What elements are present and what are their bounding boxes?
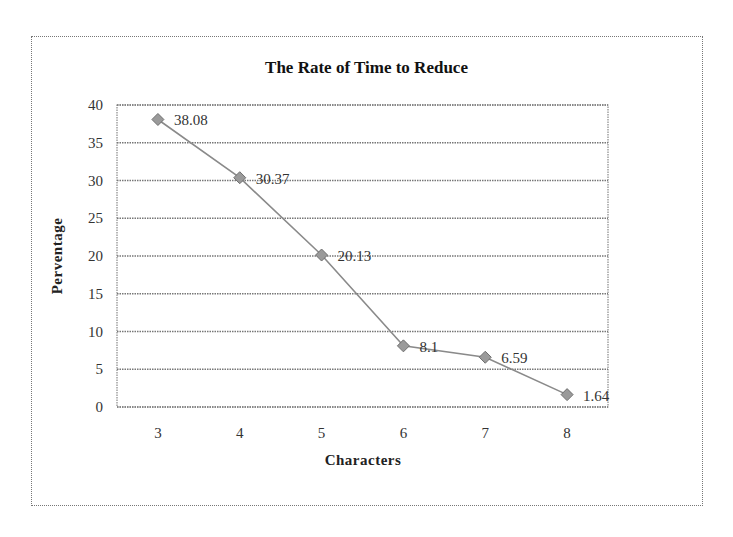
y-tick-label: 10 — [88, 324, 103, 340]
data-label: 8.1 — [419, 339, 438, 355]
y-tick-label: 15 — [88, 286, 103, 302]
data-label: 6.59 — [501, 350, 527, 366]
x-tick-label: 5 — [318, 425, 326, 441]
y-tick-label: 25 — [88, 210, 103, 226]
y-tick-label: 40 — [88, 97, 103, 113]
y-tick-label: 30 — [88, 173, 103, 189]
y-tick-label: 0 — [96, 399, 104, 415]
data-series: 38.0830.3720.138.16.591.64 — [152, 112, 610, 403]
plot-area: 0510152025303540 345678 38.0830.3720.138… — [0, 0, 733, 537]
x-tick-label: 6 — [400, 425, 408, 441]
y-tick-label: 20 — [88, 248, 103, 264]
diamond-marker-icon — [561, 389, 573, 401]
diamond-marker-icon — [479, 351, 491, 363]
diamond-marker-icon — [152, 113, 164, 125]
data-label: 1.64 — [583, 388, 610, 404]
x-axis-ticks: 345678 — [154, 425, 571, 441]
y-tick-label: 35 — [88, 135, 103, 151]
x-tick-label: 7 — [482, 425, 490, 441]
x-tick-label: 3 — [154, 425, 162, 441]
y-axis-ticks: 0510152025303540 — [88, 97, 103, 415]
data-label: 30.37 — [256, 171, 290, 187]
x-tick-label: 8 — [563, 425, 571, 441]
data-label: 20.13 — [338, 248, 372, 264]
data-label: 38.08 — [174, 112, 208, 128]
y-tick-label: 5 — [96, 361, 104, 377]
x-tick-label: 4 — [236, 425, 244, 441]
